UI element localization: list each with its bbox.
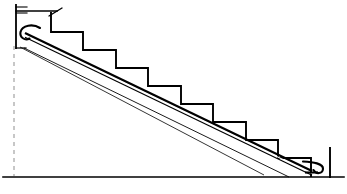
stair-elevation-drawing xyxy=(0,0,347,194)
inclined-handrail-core-gap xyxy=(25,36,312,174)
inclined-handrail-top-edge xyxy=(25,33,312,171)
inclined-handrail-bottom-edge xyxy=(25,37,312,175)
stringer-lower-edge-line xyxy=(20,47,264,175)
stair-stringer-underside-line xyxy=(24,48,289,177)
rail-top-hook-path xyxy=(20,25,40,39)
diagram-svg-root xyxy=(0,0,347,194)
